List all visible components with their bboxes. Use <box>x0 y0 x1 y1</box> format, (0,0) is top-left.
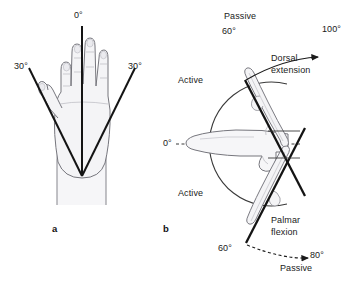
active-upper-label: Active <box>178 75 203 86</box>
dorsal-extension-label-line2: extension <box>271 65 310 76</box>
palmar-flexion-label-line2: flexion <box>271 227 298 238</box>
panel-a-goniometer-lines <box>29 26 135 176</box>
passive-flexion-caption: Passive <box>280 263 312 274</box>
passive-extension-value: 100° <box>322 24 341 35</box>
active-lower-label: Active <box>178 188 203 199</box>
wrist-range-of-motion-figure: 0° 30° 30° a Passive 100° 60° Dorsal ext… <box>0 0 351 284</box>
figure-drawing <box>0 0 351 284</box>
passive-flexion-arrow <box>247 245 308 258</box>
panel-a-hand-illustration <box>38 38 110 205</box>
active-extension-value: 60° <box>222 26 236 37</box>
passive-extension-caption: Passive <box>224 11 256 22</box>
panel-a-right-deviation-label: 30° <box>128 61 142 72</box>
palmar-flexion-label-line1: Palmar <box>271 215 300 226</box>
dorsal-extension-label-line1: Dorsal <box>271 53 298 64</box>
passive-flexion-value: 80° <box>310 250 324 261</box>
panel-b-neutral-label: 0° <box>163 138 172 149</box>
panel-a-left-deviation-label: 30° <box>14 61 28 72</box>
active-flexion-value: 60° <box>218 243 232 254</box>
panel-a-id: a <box>52 223 57 234</box>
panel-b-id: b <box>163 223 169 234</box>
panel-a-neutral-label: 0° <box>74 10 83 21</box>
